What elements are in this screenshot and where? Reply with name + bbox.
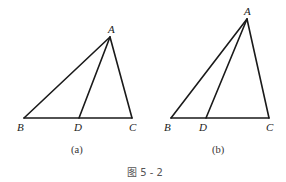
figure-canvas: A B D C (a) A B D C (b) 图 5 - 2 bbox=[0, 0, 286, 182]
point-label-a: A bbox=[107, 23, 115, 35]
point-label-d: D bbox=[73, 121, 82, 133]
segment-ab-b bbox=[171, 19, 247, 118]
panel-b: A B D C (b) bbox=[164, 5, 274, 156]
segment-ab-a bbox=[24, 37, 110, 118]
point-label-b: B bbox=[17, 121, 24, 133]
panel-a: A B D C (a) bbox=[17, 23, 137, 156]
point-label-c: C bbox=[129, 121, 137, 133]
point-label-b: B bbox=[164, 121, 171, 133]
panel-label-a: (a) bbox=[71, 144, 83, 156]
point-label-a: A bbox=[243, 5, 251, 17]
point-label-d: D bbox=[198, 121, 207, 133]
segment-ac-a bbox=[110, 37, 132, 118]
point-label-c: C bbox=[266, 121, 274, 133]
segment-ac-b bbox=[247, 19, 269, 118]
segment-ad-a bbox=[79, 37, 110, 118]
segment-ad-b bbox=[206, 19, 247, 118]
panel-label-b: (b) bbox=[212, 144, 225, 156]
figure-caption: 图 5 - 2 bbox=[127, 167, 163, 178]
